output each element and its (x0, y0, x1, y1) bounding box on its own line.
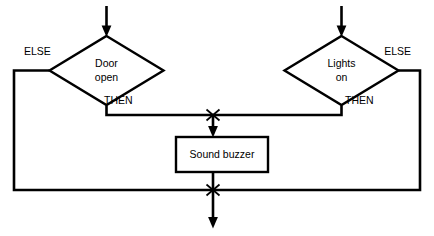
decision-node-lights-on-label-line1: Lights (327, 57, 355, 69)
input-arrow-left (102, 6, 112, 37)
input-arrow-right (337, 6, 347, 37)
edge-label-else-right: ELSE (384, 45, 411, 57)
flowchart-diagram: Door open Lights on Sound buzzer ELSE TH… (0, 0, 434, 236)
process-node-sound-buzzer: Sound buzzer (176, 137, 268, 172)
decision-node-door-open-label-line1: Door (95, 57, 118, 69)
decision-node-lights-on-label-line2: on (336, 71, 348, 83)
decision-node-lights-on: Lights on (285, 36, 399, 105)
edge-label-else-left: ELSE (24, 45, 51, 57)
process-node-sound-buzzer-label: Sound buzzer (190, 148, 255, 160)
edge-label-then-right: THEN (345, 94, 374, 106)
then-left-connector (107, 106, 214, 116)
edge-label-then-left: THEN (104, 94, 133, 106)
flowchart-canvas: Door open Lights on Sound buzzer ELSE TH… (0, 0, 434, 236)
output-arrow-bottom (208, 190, 218, 229)
then-right-connector (213, 106, 342, 116)
buzzer-input-arrow-head (208, 126, 218, 138)
output-arrow-bottom-head (208, 217, 218, 229)
decision-node-door-open-label-line2: open (95, 71, 119, 83)
